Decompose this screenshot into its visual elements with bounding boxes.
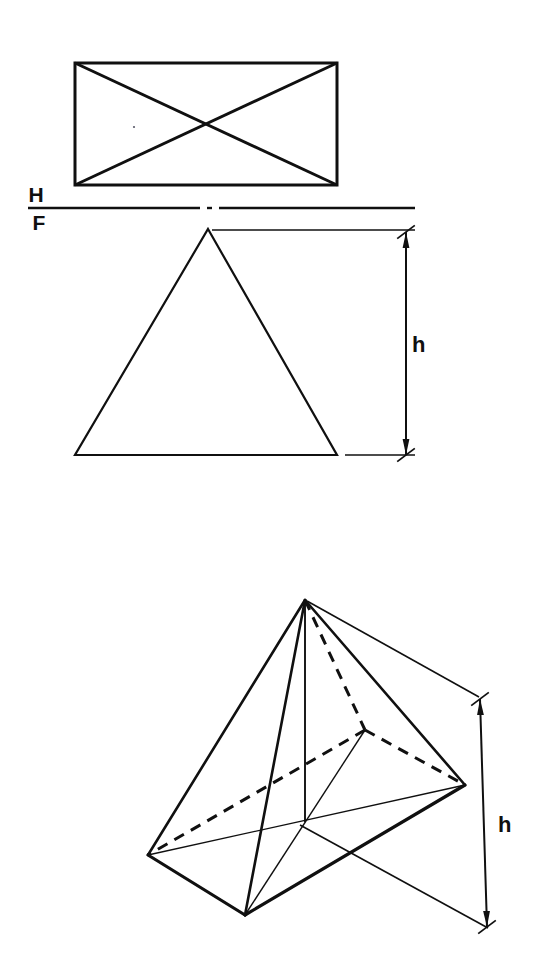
front-height-label: h [412,332,425,357]
paper-speck [133,126,135,128]
technical-drawing-container: H F h [0,0,536,955]
drawing-canvas: H F h [0,0,536,955]
pictorial-height-label: h [498,812,511,837]
horizontal-plane-label: H [28,183,43,206]
drawing-background [0,0,536,955]
frontal-plane-label: F [33,211,46,234]
